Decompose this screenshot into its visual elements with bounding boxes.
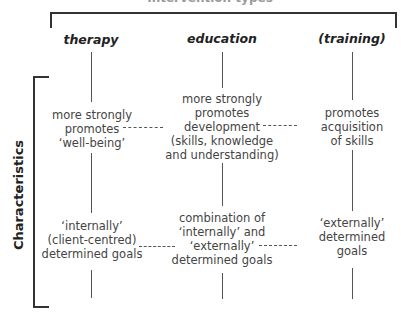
education-line-2 bbox=[222, 163, 223, 206]
row1-dash-therapy-education bbox=[123, 127, 163, 128]
text-line: promotes bbox=[27, 122, 157, 136]
top-bracket-right-tick bbox=[395, 12, 397, 28]
top-bracket-left-tick bbox=[50, 12, 52, 28]
left-bracket-top-tick bbox=[33, 76, 49, 78]
text-line: and understanding) bbox=[157, 148, 287, 162]
text-line: more strongly bbox=[27, 108, 157, 122]
text-line: goals bbox=[287, 244, 401, 258]
row1-dash-education-training bbox=[263, 125, 297, 126]
row1-training-cell: promotes acquisition of skills bbox=[287, 106, 401, 148]
text-line: determined goals bbox=[157, 253, 287, 267]
left-bracket-bottom-tick bbox=[33, 306, 49, 308]
row1-education-cell: more strongly promotes development (skil… bbox=[157, 92, 287, 162]
text-line: ‘internally’ and bbox=[157, 225, 287, 239]
text-line: determined bbox=[287, 230, 401, 244]
training-line-2 bbox=[352, 150, 353, 211]
training-line-1 bbox=[352, 52, 353, 100]
row2-dash-therapy-education bbox=[139, 246, 175, 247]
column-header-training: (training) bbox=[297, 31, 401, 46]
text-line: ‘well-being’ bbox=[27, 136, 157, 150]
row2-dash-education-training bbox=[259, 245, 297, 246]
text-line: (skills, knowledge bbox=[157, 134, 287, 148]
text-line: determined goals bbox=[27, 247, 157, 261]
row2-therapy-cell: ‘internally’ (client-centred) determined… bbox=[27, 219, 157, 261]
training-line-3 bbox=[352, 268, 353, 299]
row2-education-cell: combination of ‘internally’ and ‘externa… bbox=[157, 211, 287, 267]
text-line: promotes bbox=[157, 106, 287, 120]
text-line: promotes bbox=[287, 106, 401, 120]
text-line: development bbox=[157, 120, 287, 134]
text-line: of skills bbox=[287, 134, 401, 148]
text-line: ‘externally’ bbox=[157, 239, 287, 253]
education-line-3 bbox=[222, 273, 223, 299]
therapy-line-2 bbox=[91, 153, 92, 213]
text-line: ‘externally’ bbox=[287, 216, 401, 230]
therapy-line-3 bbox=[91, 270, 92, 298]
side-label-characteristics: Characteristics bbox=[11, 140, 26, 250]
text-line: more strongly bbox=[157, 92, 287, 106]
education-line-1 bbox=[222, 52, 223, 88]
text-line: ‘internally’ bbox=[27, 219, 157, 233]
top-bracket-line bbox=[50, 12, 397, 14]
text-line: combination of bbox=[157, 211, 287, 225]
therapy-line-1 bbox=[91, 52, 92, 102]
top-title: Intervention types bbox=[130, 0, 290, 5]
text-line: acquisition bbox=[287, 120, 401, 134]
column-header-education: education bbox=[167, 31, 277, 46]
row1-therapy-cell: more strongly promotes ‘well-being’ bbox=[27, 108, 157, 150]
column-header-therapy: therapy bbox=[36, 32, 146, 47]
text-line: (client-centred) bbox=[27, 233, 157, 247]
row2-training-cell: ‘externally’ determined goals bbox=[287, 216, 401, 258]
